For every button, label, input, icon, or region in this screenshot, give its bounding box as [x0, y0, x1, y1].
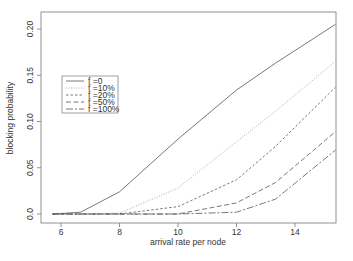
y-tick-label: 0.15	[25, 67, 35, 84]
series-line	[53, 24, 336, 214]
x-axis-ticks: 68101214	[59, 223, 300, 237]
y-axis-ticks: 0.00.050.100.150.20	[25, 20, 41, 219]
y-axis-label: blocking probability	[5, 81, 15, 154]
series-line	[53, 132, 336, 214]
x-axis-label: arrival rate per node	[150, 237, 226, 247]
x-tick-label: 6	[59, 227, 64, 237]
x-tick-label: 14	[290, 227, 300, 237]
y-tick-label: 0.05	[25, 159, 35, 176]
series-lines	[53, 24, 336, 214]
legend: f =0f =10%f =20%f =50%f =100%	[62, 76, 120, 114]
x-tick-label: 12	[232, 227, 242, 237]
blocking-probability-chart: 68101214 0.00.050.100.150.20 arrival rat…	[0, 0, 353, 261]
y-tick-label: 0.20	[25, 20, 35, 37]
y-tick-label: 0.10	[25, 113, 35, 130]
y-tick-label: 0.0	[25, 208, 35, 220]
x-tick-label: 8	[117, 227, 122, 237]
legend-label: f =100%	[88, 104, 120, 114]
x-tick-label: 10	[173, 227, 183, 237]
plot-frame	[41, 12, 336, 223]
